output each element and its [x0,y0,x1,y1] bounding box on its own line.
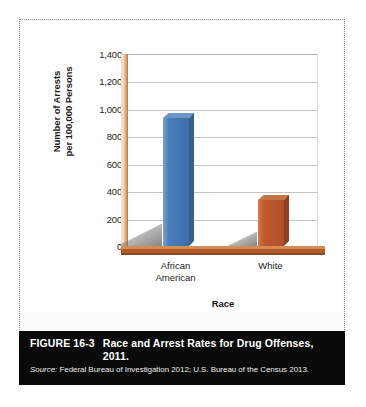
y-axis-tick-labels: 02004006008001,0001,2001,400 [78,54,122,250]
gridline [128,110,317,111]
bar-white[interactable] [258,200,284,246]
y-axis-tick-label: 1,200 [78,76,122,87]
plot-area: Number of Arrests per 100,000 Persons 02… [22,22,342,312]
figure-container: Number of Arrests per 100,000 Persons 02… [0,0,366,407]
plot-panel [128,54,318,246]
figure-source: Source: Federal Bureau of Investigation … [30,365,335,375]
x-axis-floor-edge [121,253,325,255]
x-axis-category-label: AfricanAmerican [131,260,221,283]
gridline [128,137,317,138]
y-axis-title: Number of Arrests per 100,000 Persons [51,42,74,182]
gridline [128,82,317,83]
figure-caption: FIGURE 16-3 Race and Arrest Rates for Dr… [19,331,345,385]
bar-front-face [163,118,189,246]
y-axis-title-line-2: per 100,000 Persons [62,42,74,182]
bar-side-face [189,113,194,246]
figure-title: Race and Arrest Rates for Drug Offenses,… [103,337,335,362]
y-axis-tick-label: 1,000 [78,103,122,114]
gridline [128,165,317,166]
y-axis-tick-label: 800 [78,131,122,142]
bar-african-american[interactable] [163,118,189,246]
y-axis-tick-label: 1,400 [78,49,122,60]
source-label: Source: [30,365,57,374]
y-axis-title-line-1: Number of Arrests [51,42,63,182]
caption-title-row: FIGURE 16-3 Race and Arrest Rates for Dr… [30,337,335,362]
bar-front-face [258,200,284,246]
chart-card: Number of Arrests per 100,000 Persons 02… [22,22,342,312]
figure-number: FIGURE 16-3 [30,337,95,349]
y-axis-tick-label: 400 [78,186,122,197]
x-axis-title: Race [128,298,318,309]
x-axis-category-label-line: African [131,260,221,272]
gridline [128,192,317,193]
source-text: Federal Bureau of Investigation 2012; U.… [57,365,309,374]
x-axis-category-label-line: White [226,260,316,272]
y-axis-tick-label: 0 [78,241,122,252]
x-axis-category-label-line: American [131,272,221,284]
bar-side-face [284,195,289,246]
y-axis-wall [121,54,128,251]
x-axis-category-label: White [226,260,316,272]
y-axis-tick-label: 600 [78,158,122,169]
y-axis-tick-label: 200 [78,213,122,224]
